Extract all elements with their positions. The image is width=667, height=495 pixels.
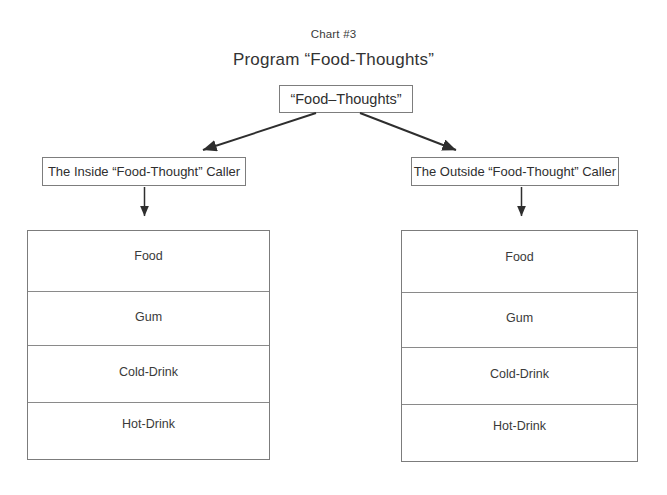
item-label: Cold-Drink	[119, 365, 178, 379]
root-node-food-thoughts: “Food–Thoughts”	[279, 85, 413, 113]
table-row: Cold-Drink	[402, 348, 637, 405]
arrow-root-to-inside	[203, 113, 316, 150]
arrow-root-to-outside	[360, 113, 456, 150]
item-label: Cold-Drink	[490, 367, 549, 381]
table-row: Food	[402, 231, 637, 293]
chart-page: Chart #3 Program “Food-Thoughts” “Food–T…	[0, 0, 667, 495]
item-label: Gum	[506, 311, 533, 325]
table-row: Gum	[402, 293, 637, 348]
page-title: Program “Food-Thoughts”	[0, 50, 667, 70]
outside-items-table: Food Gum Cold-Drink Hot-Drink	[401, 230, 638, 462]
item-label: Hot-Drink	[122, 417, 175, 431]
table-row: Hot-Drink	[402, 405, 637, 461]
chart-number-label: Chart #3	[0, 28, 667, 40]
branch-node-outside-label: The Outside “Food-Thought” Caller	[414, 164, 616, 179]
item-label: Food	[134, 249, 163, 263]
branch-node-inside-caller: The Inside “Food-Thought” Caller	[42, 157, 246, 186]
item-label: Gum	[135, 310, 162, 324]
table-row: Hot-Drink	[28, 403, 269, 459]
branch-node-outside-caller: The Outside “Food-Thought” Caller	[411, 157, 619, 186]
item-label: Food	[505, 250, 534, 264]
table-row: Cold-Drink	[28, 346, 269, 403]
item-label: Hot-Drink	[493, 419, 546, 433]
root-node-label: “Food–Thoughts”	[290, 91, 401, 107]
table-row: Food	[28, 231, 269, 292]
table-row: Gum	[28, 292, 269, 346]
branch-node-inside-label: The Inside “Food-Thought” Caller	[48, 164, 240, 179]
inside-items-table: Food Gum Cold-Drink Hot-Drink	[27, 230, 270, 460]
